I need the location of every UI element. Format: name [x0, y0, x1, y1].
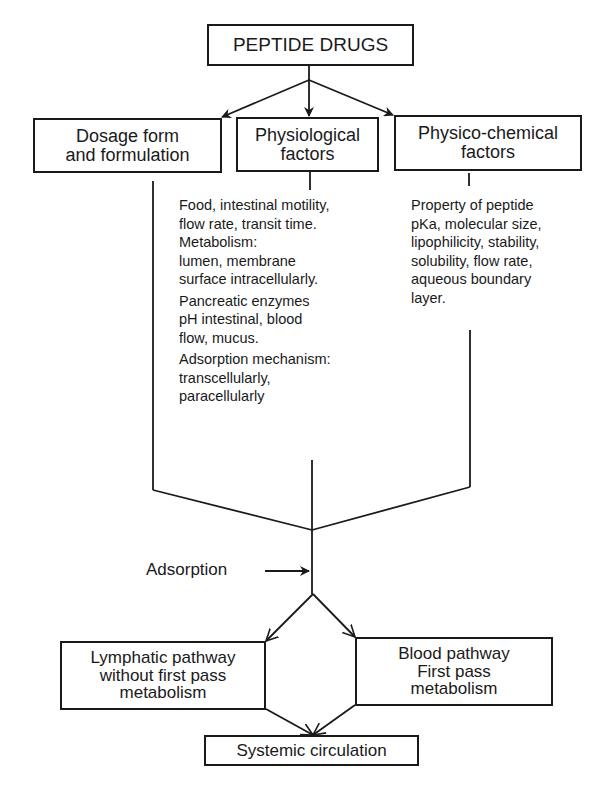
pathway-label-line: First pass [417, 663, 491, 681]
detail-line: Adsorption mechanism: [179, 350, 331, 369]
detail-line: aqueous boundary [411, 270, 542, 289]
adsorption-label: Adsorption [146, 560, 227, 580]
detail-line: pH intestinal, blood [179, 310, 331, 329]
detail-line: solubility, flow rate, [411, 252, 542, 271]
detail-line: paracellularly [179, 387, 331, 406]
detail-group-mechanism: Adsorption mechanism: transcellularly, p… [179, 350, 331, 406]
factor-label-line: Dosage form [76, 127, 179, 146]
factor-box-physicochemical: Physico-chemical factors [394, 115, 582, 171]
detail-line: Food, intestinal motility, [179, 196, 331, 215]
detail-line: surface intracellularly. [179, 270, 331, 289]
factor-box-physiological: Physiological factors [236, 117, 379, 172]
detail-line: lumen, membrane [179, 252, 331, 271]
detail-line: flow rate, transit time. [179, 215, 331, 234]
factor-label-line: and formulation [65, 146, 189, 165]
pathway-label-line: without first pass [100, 667, 227, 685]
factor-box-dosage-form: Dosage form and formulation [33, 118, 222, 173]
detail-line: Metabolism: [179, 233, 331, 252]
outcome-label: Systemic circulation [236, 742, 386, 760]
detail-group-enzymes: Pancreatic enzymes pH intestinal, blood … [179, 292, 331, 348]
factor-label-line: factors [461, 143, 515, 162]
detail-line: transcellularly, [179, 369, 331, 388]
pathway-box-blood: Blood pathway First pass metabolism [355, 637, 553, 706]
pathway-label-line: Blood pathway [398, 645, 510, 663]
physiological-details: Food, intestinal motility, flow rate, tr… [179, 196, 331, 409]
root-box-peptide-drugs: PEPTIDE DRUGS [207, 24, 414, 66]
detail-line: pKa, molecular size, [411, 215, 542, 234]
pathway-label-line: Lymphatic pathway [91, 649, 236, 667]
detail-group-food-metabolism: Food, intestinal motility, flow rate, tr… [179, 196, 331, 289]
factor-label-line: factors [280, 145, 334, 164]
detail-line: lipophilicity, stability, [411, 233, 542, 252]
pathway-label-line: metabolism [411, 680, 498, 698]
detail-line: Property of peptide [411, 196, 542, 215]
outcome-box-systemic-circulation: Systemic circulation [204, 735, 419, 766]
factor-label-line: Physico-chemical [418, 124, 558, 143]
detail-line: layer. [411, 289, 542, 308]
factor-label-line: Physiological [255, 126, 360, 145]
pathway-box-lymphatic: Lymphatic pathway without first pass met… [60, 641, 266, 710]
detail-line: Pancreatic enzymes [179, 292, 331, 311]
pathway-label-line: metabolism [120, 684, 207, 702]
physicochemical-details: Property of peptide pKa, molecular size,… [411, 196, 542, 307]
detail-line: flow, mucus. [179, 329, 331, 348]
root-label: PEPTIDE DRUGS [233, 35, 388, 55]
